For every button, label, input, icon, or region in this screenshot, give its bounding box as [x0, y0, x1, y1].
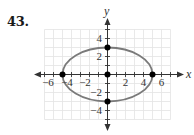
- x-tick-label: 2: [123, 76, 129, 88]
- y-tick-label: 2: [97, 50, 103, 62]
- x-tick-label: −6: [42, 76, 54, 88]
- ellipse-graph: −6 −4 −2 2 4 6 4 2 −2 −4 x y: [0, 0, 194, 135]
- point-covertex-top: [105, 45, 111, 51]
- x-axis-label: x: [185, 67, 192, 81]
- x-tick-label: 6: [159, 76, 165, 88]
- x-tick-label: 4: [141, 76, 147, 88]
- x-tick-label: −4: [61, 76, 73, 88]
- point-center: [105, 72, 111, 78]
- y-tick-label: −2: [90, 86, 102, 98]
- x-axis-arrow-left-icon: [34, 72, 41, 78]
- y-tick-label: −4: [90, 104, 102, 116]
- x-tick-labels: −6 −4 −2 2 4 6: [42, 76, 165, 88]
- y-tick-label: 4: [97, 32, 103, 44]
- x-tick-label: −2: [79, 76, 91, 88]
- point-vertex-right: [150, 72, 156, 78]
- point-covertex-bottom: [105, 99, 111, 105]
- y-axis-arrow-down-icon: [105, 124, 111, 131]
- y-axis-arrow-up-icon: [105, 18, 111, 25]
- y-axis-label: y: [103, 4, 110, 18]
- x-axis-arrow-right-icon: [177, 72, 184, 78]
